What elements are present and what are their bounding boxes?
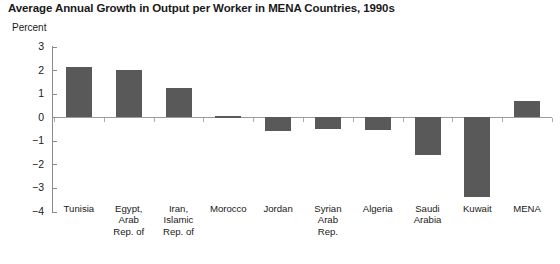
x-axis-tick-mark	[253, 118, 254, 122]
x-axis-category-label: SaudiArabia	[400, 203, 456, 226]
bar	[315, 117, 341, 129]
x-axis-tick-mark	[452, 118, 453, 122]
bar	[415, 117, 441, 155]
y-axis-tick-label: 1	[18, 88, 44, 98]
y-axis-tick-mark	[52, 47, 57, 48]
y-axis-tick-mark	[52, 188, 57, 189]
x-axis-tick-mark	[502, 118, 503, 122]
x-axis-category-label: Jordan	[250, 203, 306, 214]
x-axis-tick-mark	[104, 118, 105, 122]
bar	[166, 88, 192, 117]
x-axis-category-label-line: Jordan	[250, 203, 306, 214]
y-axis-tick-mark	[52, 70, 57, 71]
bar	[514, 101, 540, 118]
x-axis-category-label-line: Rep. of	[151, 226, 207, 237]
x-axis-category-label-line: Rep. of	[101, 226, 157, 237]
y-axis-tick-mark	[52, 164, 57, 165]
bar	[365, 117, 391, 130]
x-axis-category-label: MENA	[499, 203, 555, 214]
y-axis-tick-label: −2	[18, 159, 44, 169]
y-axis-tick-label: 3	[18, 41, 44, 51]
x-axis-category-label-line: Arab	[101, 214, 157, 225]
x-axis-category-label-line: Arab	[300, 214, 356, 225]
x-axis-category-label-line: Rep.	[300, 226, 356, 237]
x-axis-category-label: Morocco	[200, 203, 256, 214]
bar	[464, 117, 490, 197]
x-axis-category-label-line: Tunisia	[51, 203, 107, 214]
x-axis-category-label-line: Algeria	[350, 203, 406, 214]
bar	[265, 117, 291, 131]
y-axis-tick-label: 0	[18, 112, 44, 122]
bar	[215, 116, 241, 119]
bar	[116, 70, 142, 117]
x-axis-category-label-line: Egypt,	[101, 203, 157, 214]
x-axis-tick-mark	[54, 118, 55, 122]
x-axis-category-label-line: Kuwait	[449, 203, 505, 214]
chart-figure: Average Annual Growth in Output per Work…	[0, 0, 560, 264]
x-axis-tick-mark	[353, 118, 354, 122]
x-axis-category-label: Iran,IslamicRep. of	[151, 203, 207, 237]
y-axis-tick-mark	[52, 141, 57, 142]
x-axis-category-label-line: MENA	[499, 203, 555, 214]
x-axis-category-label: Kuwait	[449, 203, 505, 214]
x-axis-tick-mark	[303, 118, 304, 122]
y-axis-tick-label: −1	[18, 135, 44, 145]
plot-area: 3210−1−2−3−4TunisiaEgypt,ArabRep. ofIran…	[0, 0, 560, 264]
x-axis-tick-mark	[552, 118, 553, 122]
x-axis-category-label-line: Syrian	[300, 203, 356, 214]
y-axis-tick-label: 2	[18, 65, 44, 75]
x-axis-category-label: Tunisia	[51, 203, 107, 214]
x-axis-category-label-line: Arabia	[400, 214, 456, 225]
x-axis-tick-mark	[203, 118, 204, 122]
x-axis-category-label-line: Morocco	[200, 203, 256, 214]
y-axis-tick-label: −3	[18, 182, 44, 192]
x-axis-category-label-line: Iran,	[151, 203, 207, 214]
x-axis-category-label-line: Islamic	[151, 214, 207, 225]
x-axis-category-label: SyrianArabRep.	[300, 203, 356, 237]
y-axis-tick-mark	[52, 94, 57, 95]
x-axis-tick-mark	[403, 118, 404, 122]
x-axis-tick-mark	[154, 118, 155, 122]
x-axis-category-label: Egypt,ArabRep. of	[101, 203, 157, 237]
y-axis-tick-label: −4	[18, 206, 44, 216]
bar	[66, 67, 92, 118]
x-axis-category-label: Algeria	[350, 203, 406, 214]
x-axis-category-label-line: Saudi	[400, 203, 456, 214]
